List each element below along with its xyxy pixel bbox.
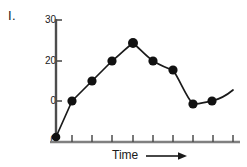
data-point bbox=[188, 99, 197, 108]
data-point bbox=[107, 56, 116, 65]
data-line bbox=[56, 43, 233, 137]
data-point-markers bbox=[52, 38, 217, 141]
data-point bbox=[168, 65, 177, 74]
data-point bbox=[87, 76, 96, 85]
line-chart-plot bbox=[0, 0, 247, 167]
x-axis-title: Time bbox=[112, 149, 138, 161]
data-point bbox=[128, 38, 138, 48]
data-point bbox=[207, 96, 216, 105]
data-point bbox=[52, 133, 61, 142]
data-point bbox=[67, 96, 76, 105]
figure-panel: I. 30 20 0 0 bbox=[0, 0, 247, 167]
time-arrow-icon bbox=[146, 152, 187, 160]
data-point bbox=[148, 56, 157, 65]
